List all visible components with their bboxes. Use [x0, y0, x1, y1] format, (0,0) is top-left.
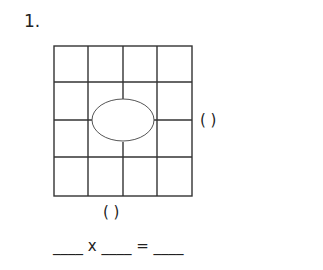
grid-figure — [0, 0, 323, 270]
cols-answer-blank[interactable]: ( ) — [103, 203, 119, 221]
covering-oval — [92, 99, 154, 141]
rows-answer-blank[interactable]: ( ) — [200, 111, 216, 129]
multiplication-equation[interactable]: ____ x ____ = ____ — [53, 237, 184, 255]
